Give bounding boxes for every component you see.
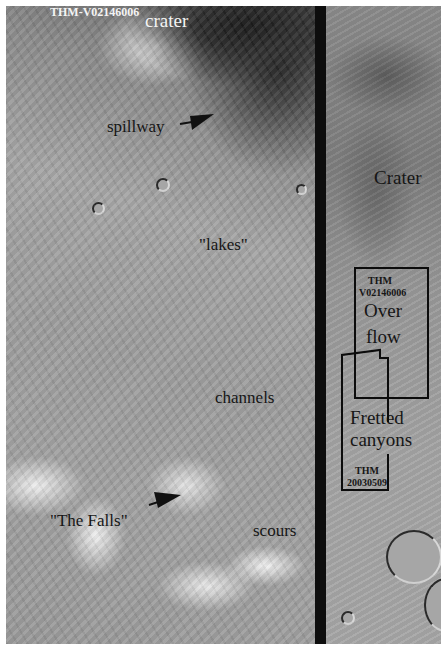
footprint-box-v02146006	[355, 268, 428, 398]
footprint-box-20030509	[342, 350, 388, 490]
annotation-overlay	[6, 6, 441, 644]
falls-arrow-icon	[149, 492, 181, 508]
spillway-arrow-icon	[180, 114, 214, 130]
mars-image-mosaic: THM-V02146006 crater spillway "lakes" ch…	[6, 6, 441, 644]
